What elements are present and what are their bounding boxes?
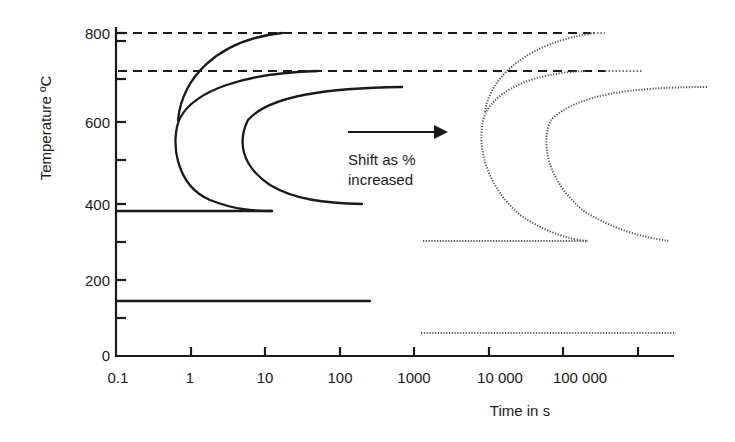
shift-annotation-line2: increased [348, 171, 413, 188]
critical-line-dotted-extensions [590, 33, 642, 71]
x-tick-1000: 1000 [397, 369, 430, 386]
y-axis-title: Temperature ºC [37, 75, 54, 180]
arrow-head-icon [434, 125, 448, 139]
shifted-curves [421, 33, 707, 333]
ferrite-start-shifted [485, 33, 595, 112]
y-axis [116, 27, 126, 357]
pearlite-start-shifted [481, 71, 588, 241]
x-tick-10: 10 [257, 369, 274, 386]
x-axis [115, 347, 674, 356]
x-tick-100000: 100 000 [553, 369, 607, 386]
x-tick-1: 1 [186, 369, 194, 386]
transformation-finish-shifted [546, 87, 707, 241]
y-tick-600: 600 [85, 114, 110, 131]
y-tick-400: 400 [85, 196, 110, 213]
x-axis-title: Time in s [490, 402, 550, 419]
ttt-diagram: 800 600 400 200 0 0.1 1 10 100 1000 10 0… [0, 0, 735, 442]
shift-annotation-line1: Shift as % [348, 151, 416, 168]
y-tick-200: 200 [85, 272, 110, 289]
x-tick-10000: 10 000 [477, 369, 523, 386]
x-tick-0.1: 0.1 [108, 369, 129, 386]
y-tick-800: 800 [85, 25, 110, 42]
pearlite-start-curve [175, 71, 318, 211]
shift-arrow [348, 125, 448, 139]
y-tick-0: 0 [102, 347, 110, 364]
x-tick-100: 100 [327, 369, 352, 386]
